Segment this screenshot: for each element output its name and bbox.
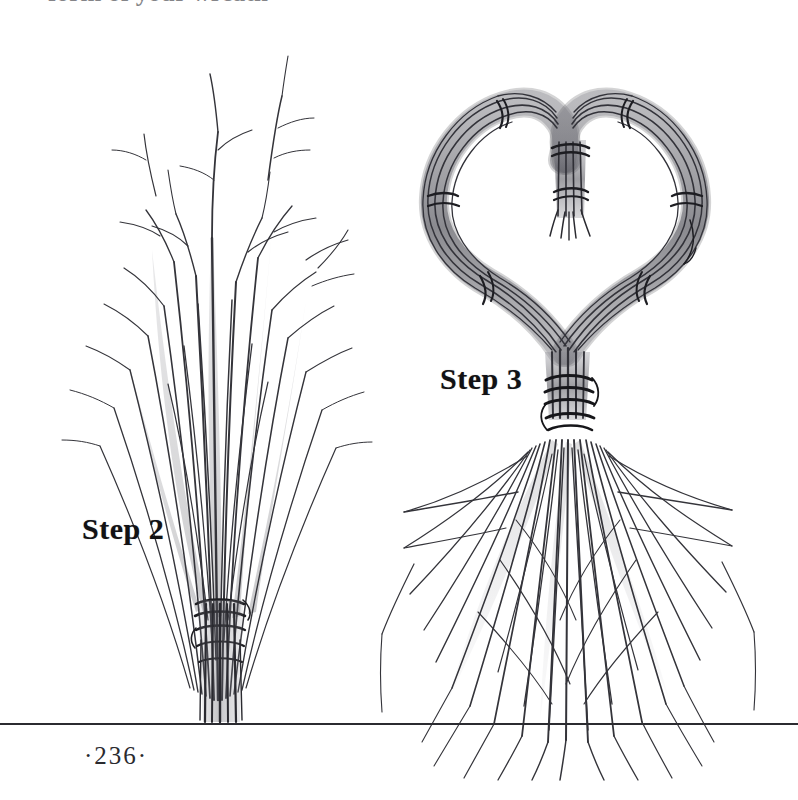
step-3-center-tassel xyxy=(550,140,590,240)
step-3-illustration xyxy=(0,0,798,800)
step-3-skirt xyxy=(381,440,756,780)
step-3-label: Step 3 xyxy=(440,362,522,396)
step-3-heart-body xyxy=(434,103,696,352)
step-2-label: Step 2 xyxy=(82,512,164,546)
step-3-stem xyxy=(545,348,590,420)
baseline-rule xyxy=(0,723,798,725)
page-number: ·236· xyxy=(84,742,148,770)
book-page: form of your wreath xyxy=(0,0,798,800)
